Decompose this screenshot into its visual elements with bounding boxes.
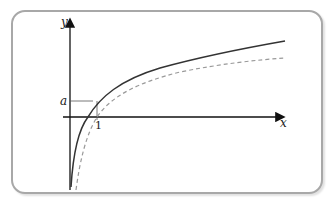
a-label: a [60,94,67,108]
y-axis-label: y [60,15,68,29]
solid-curve [71,41,285,187]
dashed-curve [76,58,285,190]
x-tick-label: 1 [95,119,102,132]
graph: y x a 1 [0,0,333,204]
x-axis-label: x [280,116,287,130]
